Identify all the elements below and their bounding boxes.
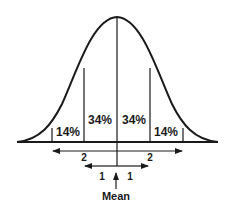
two-sd-right-label: 2 (147, 152, 153, 163)
region-label: 34% (88, 113, 112, 127)
normal-curve-diagram: 14% 34% 34% 14% 2 2 1 1 Mean (0, 0, 232, 212)
one-sd-right-label: 1 (127, 171, 133, 182)
region-label: 14% (56, 125, 80, 139)
region-label: 14% (154, 125, 178, 139)
mean-label: Mean (102, 190, 130, 202)
two-sd-left-label: 2 (81, 152, 87, 163)
region-label: 34% (122, 113, 146, 127)
one-sd-left-label: 1 (99, 171, 105, 182)
